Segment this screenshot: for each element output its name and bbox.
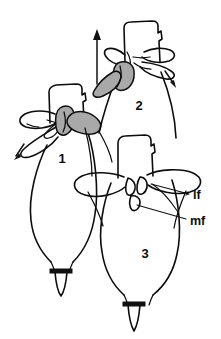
panel-3-tip: [128, 305, 140, 331]
panel-2-arrow-head-icon: [170, 80, 176, 88]
line-drawing: 1 2 3 lf mf: [0, 0, 221, 339]
panel-1-group: [14, 84, 101, 296]
panel-2-lobe-right-upper: [142, 48, 174, 62]
panel-1-tip: [55, 272, 67, 296]
panel-3-tip-band: [123, 302, 145, 306]
panel-2-number: 2: [135, 98, 142, 113]
panel-3-mf-structure: [130, 196, 140, 211]
panel-1-hair-detail: [27, 124, 39, 127]
label-lf: lf: [193, 188, 201, 202]
panel-3-median-lobe-a: [126, 178, 135, 195]
panel-2-chimney: [124, 21, 162, 62]
label-mf: mf: [190, 214, 206, 228]
panel-1-body-left: [30, 145, 51, 262]
panel-2-group: [93, 21, 176, 138]
panel-3-median-lobe-b: [137, 177, 147, 194]
panel-3-tip-neck-right: [149, 295, 153, 305]
panel-3-group: [74, 135, 200, 331]
panel-3-number: 3: [141, 246, 148, 261]
panel2-overlap-contour: [100, 133, 112, 162]
panel-1-tip-band: [50, 269, 72, 273]
figure-canvas: 1 2 3 lf mf: [0, 0, 221, 339]
panel-3-chimney: [118, 135, 155, 178]
panel-1-number: 1: [58, 151, 65, 166]
panel-1-shaded-hook-b: [67, 111, 101, 134]
panel-3-body-left: [101, 183, 124, 295]
panel-1-body-right: [73, 133, 97, 262]
panel-2-flap-detail-2: [134, 63, 151, 69]
main-arrow-head-icon: [93, 29, 101, 40]
direction-arrow-group: [93, 29, 101, 84]
panel-1-lobe-lower-left: [21, 127, 58, 157]
